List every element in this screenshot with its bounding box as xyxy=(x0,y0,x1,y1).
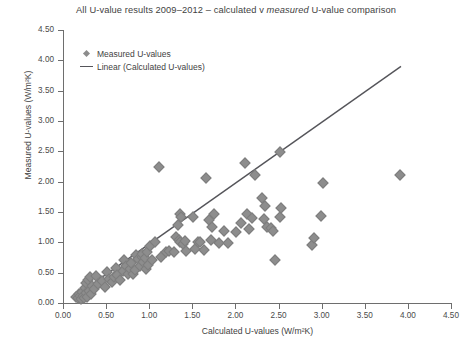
x-tick-label: 3.00 xyxy=(300,311,344,320)
y-tick-label: 1.00 xyxy=(20,237,54,246)
x-tick-label: 3.50 xyxy=(343,311,387,320)
y-tick-label: 1.50 xyxy=(20,207,54,216)
y-tick-label: 4.50 xyxy=(20,25,54,34)
x-tick xyxy=(365,304,366,309)
x-tick-label: 1.00 xyxy=(127,311,171,320)
chart-title-part2: U-value comparison xyxy=(309,5,396,15)
x-tick xyxy=(451,304,452,309)
x-tick-label: 2.00 xyxy=(213,311,257,320)
x-tick-label: 2.50 xyxy=(257,311,301,320)
y-tick-label: 0.00 xyxy=(20,298,54,307)
x-tick-label: 0.50 xyxy=(84,311,128,320)
x-tick xyxy=(322,304,323,309)
x-tick xyxy=(235,304,236,309)
x-tick xyxy=(408,304,409,309)
y-tick-label: 0.50 xyxy=(20,268,54,277)
x-tick xyxy=(106,304,107,309)
y-axis-title: Measured U-values (W/m²K) xyxy=(23,50,33,200)
x-tick xyxy=(149,304,150,309)
x-axis-line xyxy=(63,303,452,304)
x-tick xyxy=(63,304,64,309)
x-tick-label: 4.50 xyxy=(429,311,472,320)
chart-title-part1: All U-value results 2009–2012 – calculat… xyxy=(76,5,267,15)
x-tick xyxy=(279,304,280,309)
chart-title: All U-value results 2009–2012 – calculat… xyxy=(0,5,472,15)
x-tick-label: 4.00 xyxy=(386,311,430,320)
plot-area xyxy=(63,30,451,303)
x-tick-label: 0.00 xyxy=(41,311,85,320)
x-tick xyxy=(192,304,193,309)
chart-figure: All U-value results 2009–2012 – calculat… xyxy=(0,0,472,345)
x-axis-title: Calculated U-values (W/m²K) xyxy=(63,326,452,336)
x-tick-label: 1.50 xyxy=(170,311,214,320)
chart-title-emphasis: measured xyxy=(267,5,309,15)
